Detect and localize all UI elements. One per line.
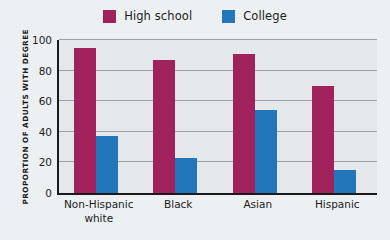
legend-item-college: College	[222, 9, 287, 23]
bar-high-school	[233, 54, 255, 193]
bar-college	[255, 110, 277, 193]
y-tick-label: 40	[26, 126, 52, 138]
bar-college	[96, 136, 118, 193]
bar-high-school	[153, 60, 175, 193]
category-label-line: Non-Hispanic	[59, 198, 139, 212]
category-label: Hispanic	[298, 198, 378, 212]
category-label-line: white	[59, 212, 139, 226]
y-tick-label: 100	[26, 34, 52, 46]
category-label-line: Black	[139, 198, 219, 212]
bar-group	[298, 40, 378, 193]
legend-swatch-high-school	[103, 10, 116, 23]
bar-high-school	[312, 86, 334, 193]
bar-group	[218, 40, 298, 193]
bar-groups	[59, 40, 375, 193]
chart-legend: High school College	[0, 9, 390, 23]
y-axis-tick-labels: 020406080100	[22, 40, 52, 193]
legend-item-high-school: High school	[103, 9, 192, 23]
legend-label-high-school: High school	[124, 9, 192, 23]
y-tick-label: 60	[26, 95, 52, 107]
y-tick-label: 80	[26, 65, 52, 77]
bar-college	[334, 170, 356, 193]
legend-label-college: College	[243, 9, 287, 23]
bar-group	[59, 40, 139, 193]
bar-chart: High school College PROPORTION OF ADULTS…	[0, 0, 390, 240]
category-label-line: Asian	[218, 198, 298, 212]
y-tick-label: 0	[26, 187, 52, 199]
category-label: Black	[139, 198, 219, 212]
bar-group	[139, 40, 219, 193]
category-label-line: Hispanic	[298, 198, 378, 212]
legend-swatch-college	[222, 10, 235, 23]
category-label: Asian	[218, 198, 298, 212]
bar-high-school	[74, 48, 96, 193]
x-axis-category-labels: Non-HispanicwhiteBlackAsianHispanic	[59, 198, 375, 238]
category-label: Non-Hispanicwhite	[59, 198, 139, 225]
y-tick-label: 20	[26, 156, 52, 168]
bar-college	[175, 158, 197, 193]
